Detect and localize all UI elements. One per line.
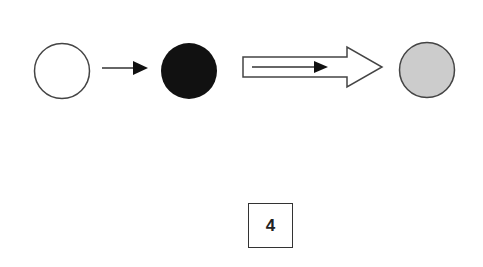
diagram-canvas xyxy=(0,0,483,267)
figure-number: 4 xyxy=(266,216,275,236)
hollow-block-arrow xyxy=(243,47,382,87)
white-circle xyxy=(35,44,90,99)
figure-number-box: 4 xyxy=(248,203,293,248)
grey-circle xyxy=(400,43,455,98)
thin-arrow xyxy=(102,61,148,75)
black-circle xyxy=(161,43,217,99)
